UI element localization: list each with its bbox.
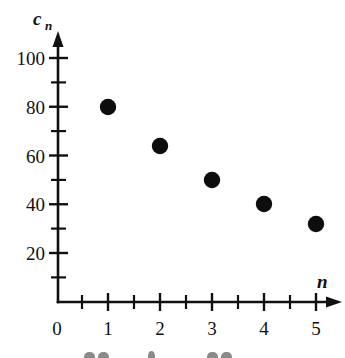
y-axis-title-subscript: n [45,18,52,33]
y-axis-title-base: c [33,8,42,29]
data-point-n-1 [100,99,116,115]
x-tick-label-4: 4 [259,318,269,339]
x-tick-label-5: 5 [311,318,321,339]
data-point-n-3 [204,172,220,188]
x-axis-tick-labels: 0 1 2 3 4 5 [52,318,321,339]
data-point-n-2 [152,138,168,154]
y-tick-label-80: 80 [26,97,45,118]
y-tick-label-40: 40 [26,194,45,215]
y-tick-label-60: 60 [26,146,45,167]
x-tick-label-3: 3 [207,318,217,339]
x-tick-label-2: 2 [155,318,165,339]
x-tick-label-0: 0 [52,318,62,339]
y-axis-group [53,31,64,302]
x-axis-group [58,297,342,308]
x-axis-title: n [317,271,328,292]
x-axis-arrowhead [326,297,342,308]
y-tick-label-20: 20 [26,243,45,264]
data-point-n-5 [308,216,324,232]
data-point-n-4 [256,196,272,212]
y-axis-arrowhead [53,31,64,47]
y-axis-tick-labels: 100 80 60 40 20 [17,48,46,264]
chart-figure: 100 80 60 40 20 0 1 2 3 4 5 c n n [0,0,345,358]
y-tick-label-100: 100 [17,48,46,69]
scatter-plot-canvas: 100 80 60 40 20 0 1 2 3 4 5 c n n [0,0,345,358]
x-tick-label-1: 1 [103,318,113,339]
data-point-series [100,99,324,232]
